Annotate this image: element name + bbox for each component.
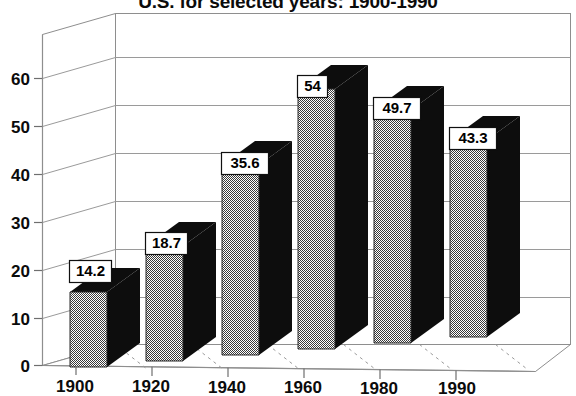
data-label-value: 35.6 [230, 154, 259, 171]
x-tick-label: 1960 [284, 378, 322, 396]
bar-1980[interactable] [374, 86, 444, 343]
bar-front-face [298, 89, 335, 349]
chart-canvas: U.S. for selected years: 1900-1990 [0, 0, 576, 396]
bar-front-face [70, 292, 107, 367]
bar-front-face [374, 110, 411, 343]
data-label-value: 18.7 [152, 234, 181, 251]
data-label-value: 54 [304, 77, 321, 94]
x-tick-label: 1980 [360, 379, 398, 396]
x-tick-label: 1990 [438, 379, 476, 396]
y-tick-label: 20 [11, 262, 30, 281]
bar-chart-3d: 60 50 40 30 20 10 0 [0, 0, 576, 396]
data-label-1980: 49.7 [374, 98, 421, 120]
x-tick-label: 1920 [132, 377, 170, 396]
y-tick-label: 0 [21, 357, 30, 376]
x-axis-labels: 1900 1920 1940 1960 1980 1990 [56, 377, 476, 396]
y-tick-label: 10 [11, 310, 30, 329]
y-tick-label: 60 [11, 70, 30, 89]
data-label-1920: 18.7 [146, 233, 188, 255]
data-label-1940: 35.6 [222, 153, 269, 175]
data-label-1960: 54 [298, 76, 328, 98]
data-label-1990: 43.3 [450, 128, 497, 150]
y-tick-label: 40 [11, 166, 30, 185]
bar-front-face [222, 165, 259, 355]
data-label-value: 49.7 [382, 99, 411, 116]
y-tick-label: 30 [11, 214, 30, 233]
bar-side-face [335, 65, 368, 349]
data-label-1900: 14.2 [70, 261, 112, 283]
bar-front-face [146, 246, 183, 361]
y-axis-labels: 60 50 40 30 20 10 0 [11, 70, 30, 376]
bar-front-face [450, 140, 487, 337]
x-tick-label: 1940 [208, 378, 246, 396]
x-tick-label: 1900 [56, 377, 94, 396]
bar-side-face [411, 86, 444, 343]
data-label-value: 43.3 [458, 129, 487, 146]
data-label-value: 14.2 [76, 262, 105, 279]
y-tick-label: 50 [11, 118, 30, 137]
bar-1960[interactable] [298, 65, 368, 349]
